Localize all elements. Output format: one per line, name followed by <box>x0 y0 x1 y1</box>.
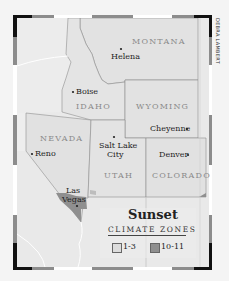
legend-label-1-3: 1-3 <box>123 242 136 251</box>
city-label-city: City <box>107 150 123 159</box>
legend-swatch-1-3 <box>112 243 122 253</box>
city-label-salt-lake: Salt Lake <box>99 141 137 150</box>
state-label-colorado: COLORADO <box>152 171 211 180</box>
city-label-helena: Helena <box>111 52 140 61</box>
city-label-cheyenne: Cheyenne <box>150 124 190 133</box>
state-label-montana: MONTANA <box>132 37 186 46</box>
state-label-utah: UTAH <box>104 171 133 180</box>
city-label-vegas: Vegas <box>62 195 86 204</box>
legend-title: Sunset <box>128 207 178 222</box>
state-colorado <box>146 138 206 197</box>
state-label-nevada: NEVADA <box>40 134 83 143</box>
legend-divider <box>108 235 186 236</box>
legend-swatch-10-11 <box>150 243 160 253</box>
state-label-wyoming: WYOMING <box>136 102 189 111</box>
photo-credit: DEBRA LAMBERT <box>213 18 223 68</box>
state-label-idaho: IDAHO <box>76 102 111 111</box>
city-label-denver: Denver <box>159 150 188 159</box>
city-label-las: Las <box>66 186 80 195</box>
city-label-boise: Boise <box>76 87 98 96</box>
legend-label-10-11: 10-11 <box>161 242 184 251</box>
legend-subtitle: CLIMATE ZONES <box>108 225 197 234</box>
city-label-reno: Reno <box>35 149 56 158</box>
